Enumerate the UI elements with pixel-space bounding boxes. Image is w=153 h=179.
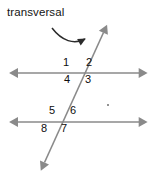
transversal-pointer-arrow bbox=[52, 28, 85, 42]
angle-label-4: 4 bbox=[61, 74, 73, 85]
transversal-line bbox=[45, 33, 104, 163]
angle-label-8: 8 bbox=[38, 123, 50, 134]
angle-label-6: 6 bbox=[67, 105, 79, 116]
angle-label-3: 3 bbox=[82, 74, 94, 85]
transversal-caption: transversal bbox=[7, 7, 64, 19]
stray-dot-mark bbox=[107, 104, 109, 106]
geometry-canvas bbox=[0, 0, 153, 179]
geometry-figure: transversal 1 2 4 3 5 6 8 7 bbox=[0, 0, 153, 179]
angle-label-2: 2 bbox=[83, 57, 95, 68]
angle-label-7: 7 bbox=[58, 123, 70, 134]
angle-label-5: 5 bbox=[46, 105, 58, 116]
angle-label-1: 1 bbox=[60, 57, 72, 68]
